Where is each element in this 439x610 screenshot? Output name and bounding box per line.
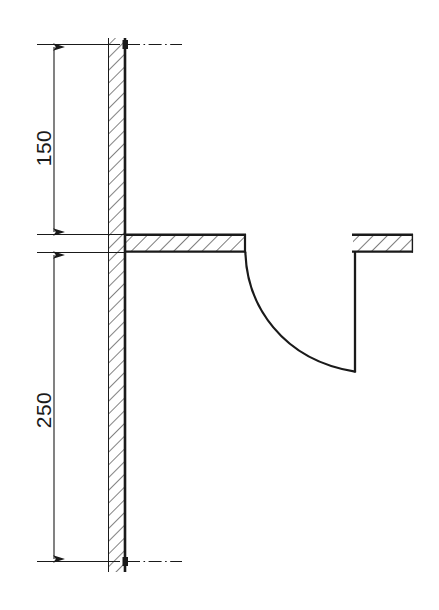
dimension-150: 150 [32,47,55,232]
dimension-250-label: 250 [32,392,55,429]
dimension-250: 250 [32,255,55,559]
right-slab-hatch-fill [353,234,412,252]
technical-drawing-canvas: 150 250 [0,0,439,610]
bottom-wall-node-tick [123,557,129,566]
left-slab-hatch-fill [125,234,245,252]
engineering-section-svg: 150 250 [0,0,439,610]
top-wall-node-tick [123,40,129,49]
concave-fillet-curve [245,252,355,371]
vertical-wall-section [108,38,125,572]
left-horizontal-slab [125,234,246,253]
wall-hatch-fill [108,38,125,572]
dimension-150-label: 150 [32,130,55,167]
right-horizontal-slab [352,234,413,253]
